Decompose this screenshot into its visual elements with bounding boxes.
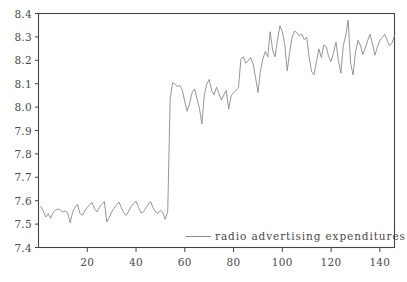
y-axis-tick-label: 8.0 [2,101,32,113]
y-axis-tick-label: 8.1 [2,78,32,90]
y-axis-tick-label: 8.3 [2,31,32,43]
x-axis-tick-label: 100 [262,256,302,268]
data-series-line [41,20,395,223]
x-axis-tick-marks [87,248,380,253]
x-axis-tick-label: 120 [311,256,351,268]
y-axis-tick-label: 7.4 [2,242,32,254]
legend: radio advertising expenditures [186,230,406,242]
legend-line-swatch [186,236,211,237]
x-axis-tick-label: 80 [214,256,254,268]
plot-frame [39,14,395,248]
y-axis-tick-label: 8.4 [2,8,32,20]
chart-container: 7.47.57.67.77.87.98.08.18.28.38.4 204060… [0,0,407,282]
y-axis-tick-label: 7.8 [2,148,32,160]
y-axis-tick-label: 8.2 [2,54,32,66]
y-axis-tick-label: 7.9 [2,125,32,137]
x-axis-tick-label: 140 [360,256,400,268]
x-axis-tick-label: 40 [116,256,156,268]
x-axis-tick-label: 20 [67,256,107,268]
legend-label: radio advertising expenditures [215,230,406,242]
x-axis-tick-label: 60 [165,256,205,268]
y-axis-tick-label: 7.5 [2,218,32,230]
y-axis-tick-label: 7.6 [2,195,32,207]
y-axis-tick-label: 7.7 [2,171,32,183]
